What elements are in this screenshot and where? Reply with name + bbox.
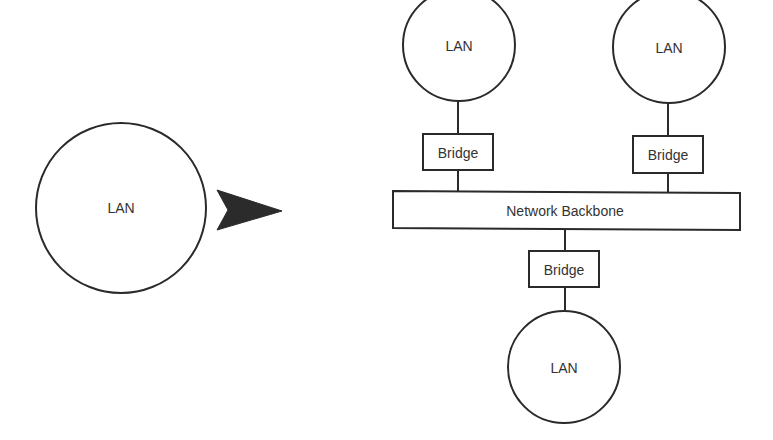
arrowhead-right-icon <box>217 190 282 230</box>
lan-bottom-label: LAN <box>550 360 577 376</box>
bridge-top-right-label: Bridge <box>648 147 688 163</box>
bridge-top-left-label: Bridge <box>438 145 478 161</box>
lan-backbone-diagram: LAN LAN LAN Bridge Bridge Network Backbo… <box>0 0 773 440</box>
bridge-bottom-label: Bridge <box>544 262 584 278</box>
lan-top-right-label: LAN <box>655 40 682 56</box>
lan-single-label: LAN <box>107 200 134 216</box>
network-backbone-label: Network Backbone <box>506 203 624 219</box>
lan-top-left-label: LAN <box>445 38 472 54</box>
